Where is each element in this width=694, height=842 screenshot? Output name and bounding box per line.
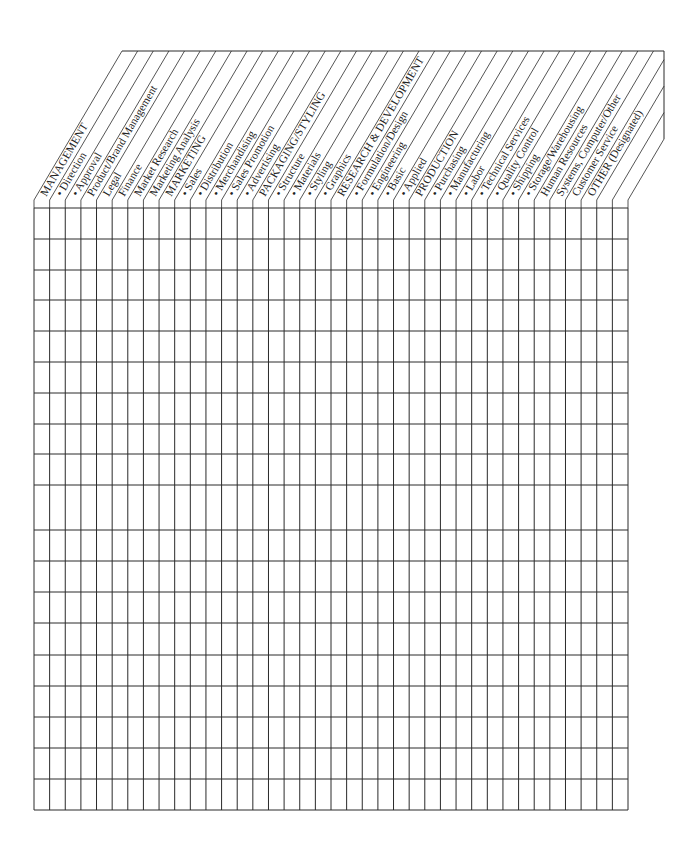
matrix-cell[interactable] [456, 717, 472, 748]
matrix-cell[interactable] [565, 561, 581, 592]
matrix-cell[interactable] [456, 331, 472, 362]
matrix-cell[interactable] [597, 485, 613, 530]
matrix-cell[interactable] [534, 686, 550, 717]
matrix-cell[interactable] [112, 393, 128, 424]
matrix-cell[interactable] [487, 424, 503, 454]
matrix-cell[interactable] [190, 393, 206, 424]
matrix-cell[interactable] [237, 239, 253, 270]
matrix-cell[interactable] [50, 485, 66, 530]
matrix-cell[interactable] [612, 748, 628, 779]
matrix-cell[interactable] [34, 424, 50, 454]
matrix-cell[interactable] [550, 300, 566, 331]
matrix-cell[interactable] [315, 592, 331, 623]
matrix-cell[interactable] [97, 623, 113, 655]
matrix-cell[interactable] [472, 717, 488, 748]
matrix-cell[interactable] [190, 530, 206, 561]
matrix-cell[interactable] [159, 779, 175, 810]
matrix-cell[interactable] [378, 208, 394, 239]
matrix-cell[interactable] [97, 655, 113, 686]
matrix-cell[interactable] [159, 239, 175, 270]
matrix-cell[interactable] [456, 655, 472, 686]
matrix-cell[interactable] [550, 393, 566, 424]
matrix-cell[interactable] [581, 655, 597, 686]
matrix-cell[interactable] [519, 424, 535, 454]
matrix-cell[interactable] [284, 530, 300, 561]
matrix-cell[interactable] [190, 717, 206, 748]
matrix-cell[interactable] [97, 393, 113, 424]
matrix-cell[interactable] [268, 208, 284, 239]
matrix-cell[interactable] [409, 239, 425, 270]
matrix-cell[interactable] [534, 208, 550, 239]
matrix-cell[interactable] [394, 485, 410, 530]
matrix-cell[interactable] [206, 623, 222, 655]
matrix-cell[interactable] [550, 424, 566, 454]
matrix-cell[interactable] [472, 331, 488, 362]
matrix-cell[interactable] [268, 300, 284, 331]
matrix-cell[interactable] [347, 362, 363, 393]
matrix-cell[interactable] [487, 239, 503, 270]
matrix-cell[interactable] [315, 331, 331, 362]
matrix-cell[interactable] [65, 208, 81, 239]
matrix-cell[interactable] [34, 686, 50, 717]
matrix-cell[interactable] [440, 530, 456, 561]
matrix-cell[interactable] [519, 454, 535, 485]
matrix-cell[interactable] [456, 393, 472, 424]
matrix-cell[interactable] [487, 623, 503, 655]
matrix-cell[interactable] [519, 530, 535, 561]
matrix-cell[interactable] [456, 362, 472, 393]
matrix-cell[interactable] [206, 592, 222, 623]
matrix-cell[interactable] [347, 239, 363, 270]
matrix-cell[interactable] [347, 530, 363, 561]
matrix-cell[interactable] [550, 561, 566, 592]
matrix-cell[interactable] [503, 208, 519, 239]
matrix-cell[interactable] [331, 270, 347, 300]
matrix-cell[interactable] [440, 331, 456, 362]
matrix-cell[interactable] [565, 362, 581, 393]
matrix-cell[interactable] [440, 561, 456, 592]
matrix-cell[interactable] [581, 779, 597, 810]
matrix-cell[interactable] [253, 362, 269, 393]
matrix-cell[interactable] [519, 592, 535, 623]
matrix-cell[interactable] [456, 270, 472, 300]
matrix-cell[interactable] [65, 362, 81, 393]
matrix-cell[interactable] [409, 748, 425, 779]
matrix-cell[interactable] [97, 270, 113, 300]
matrix-cell[interactable] [237, 362, 253, 393]
matrix-cell[interactable] [190, 424, 206, 454]
matrix-cell[interactable] [268, 331, 284, 362]
matrix-cell[interactable] [472, 393, 488, 424]
matrix-cell[interactable] [597, 530, 613, 561]
matrix-cell[interactable] [81, 424, 97, 454]
matrix-cell[interactable] [581, 270, 597, 300]
matrix-cell[interactable] [81, 561, 97, 592]
matrix-cell[interactable] [597, 655, 613, 686]
matrix-cell[interactable] [128, 561, 144, 592]
matrix-cell[interactable] [268, 485, 284, 530]
matrix-cell[interactable] [440, 454, 456, 485]
matrix-cell[interactable] [315, 485, 331, 530]
matrix-cell[interactable] [565, 270, 581, 300]
matrix-cell[interactable] [331, 454, 347, 485]
matrix-cell[interactable] [50, 424, 66, 454]
matrix-cell[interactable] [394, 331, 410, 362]
matrix-cell[interactable] [112, 748, 128, 779]
matrix-cell[interactable] [206, 239, 222, 270]
matrix-cell[interactable] [550, 717, 566, 748]
matrix-cell[interactable] [159, 362, 175, 393]
matrix-cell[interactable] [65, 655, 81, 686]
matrix-cell[interactable] [612, 454, 628, 485]
matrix-cell[interactable] [534, 779, 550, 810]
matrix-cell[interactable] [143, 300, 159, 331]
matrix-cell[interactable] [331, 717, 347, 748]
matrix-cell[interactable] [331, 561, 347, 592]
matrix-cell[interactable] [34, 270, 50, 300]
matrix-cell[interactable] [175, 331, 191, 362]
matrix-cell[interactable] [112, 424, 128, 454]
matrix-cell[interactable] [347, 331, 363, 362]
matrix-cell[interactable] [440, 717, 456, 748]
matrix-cell[interactable] [503, 331, 519, 362]
matrix-cell[interactable] [315, 655, 331, 686]
matrix-cell[interactable] [534, 362, 550, 393]
matrix-cell[interactable] [112, 686, 128, 717]
matrix-cell[interactable] [394, 270, 410, 300]
